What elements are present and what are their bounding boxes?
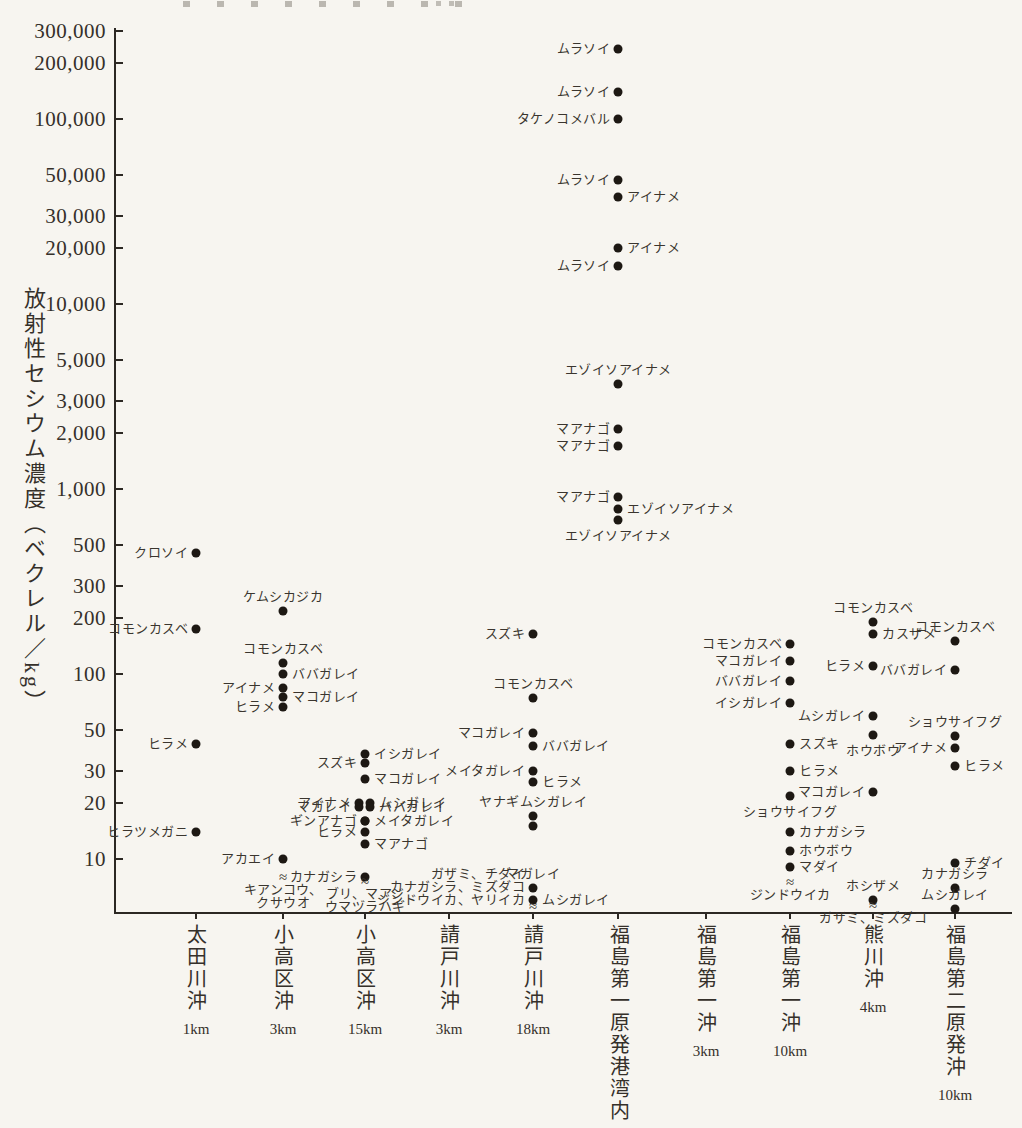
data-point [529,629,538,638]
point-label: ヒラメ [235,700,276,714]
y-axis-tick [115,729,123,731]
y-tick-label: 500 [0,532,106,558]
not-detected-species: ジンドウイカ [750,888,831,901]
y-axis-tick [115,359,123,361]
data-point [529,822,538,831]
data-point [361,749,370,758]
point-label: ホシザメ [846,879,900,893]
point-label: マアナゴ [556,490,610,504]
location-name: 請戸川沖 [522,924,544,1012]
y-tick-label: 30 [0,758,106,784]
location-name: 請戸川沖 [438,924,460,1012]
data-point [614,87,623,96]
location-name: 小高区沖 [272,924,294,1012]
data-point [786,656,795,665]
data-point [951,743,960,752]
point-label: ムラソイ [557,42,610,56]
point-label: ショウサイフグ [743,805,838,819]
point-label: タケノコメバル [517,112,611,126]
data-point [786,698,795,707]
data-point [614,44,623,53]
point-label: マコガレイ [458,726,526,740]
point-label: ケムシカジカ [243,590,323,604]
x-axis-tick [789,912,791,919]
point-label: ヒラツメガニ [107,825,188,839]
not-detected-species: ガザミ、ミズダコ [819,911,927,924]
x-category-label: 小高区沖3km [270,924,297,1038]
location-distance: 4km [860,999,887,1016]
cesium-concentration-scatter-chart: 放射性セシウム濃度（ベクレル／kg） 300,000200,000100,000… [0,0,1022,1128]
point-label: マアナゴ [374,837,428,851]
y-tick-label: 100,000 [0,106,106,132]
data-point [869,788,878,797]
data-point [529,741,538,750]
point-label: カナガシラ [290,870,358,884]
point-label: ヒラメ [825,659,866,673]
y-axis-tick [115,770,123,772]
data-point [951,761,960,770]
point-label: アイナメ [222,681,275,695]
approx-equal-symbol: ≈ [529,899,537,914]
point-label: ババガレイ [880,663,948,677]
point-label: エゾイソアイナメ [627,502,734,516]
x-category-label: 小高区沖15km [348,924,382,1038]
point-label: クロソイ [134,546,188,560]
point-label: マコガレイ [798,785,866,799]
location-distance: 3km [436,1021,463,1038]
data-point [529,883,538,892]
point-label: ヒラメ [799,764,840,778]
data-point [192,549,201,558]
data-point [869,662,878,671]
y-axis-tick [115,585,123,587]
point-label: アイナメ [627,190,680,204]
y-axis-tick [115,247,123,249]
y-axis-tick [115,400,123,402]
data-point [361,759,370,768]
x-axis-tick [705,912,707,919]
point-label: スズキ [317,756,358,770]
point-label: コモンカスベ [108,622,188,636]
data-point [192,739,201,748]
not-detected-species: ジンドウイカ、ヤリイカ [377,893,526,906]
data-point [279,693,288,702]
point-label: スズキ [485,627,526,641]
location-name: 福島第一沖 [695,924,717,1034]
data-point [786,791,795,800]
y-tick-label: 50 [0,717,106,743]
y-tick-label: 3,000 [0,388,106,414]
data-point [786,766,795,775]
y-axis-tick [115,802,123,804]
point-label: コモンカスベ [243,642,323,656]
point-label: スズキ [799,737,840,751]
point-label: カナガシラ [921,867,989,881]
data-point [192,827,201,836]
point-label: ムシガレイ [921,888,989,902]
point-label: ムラソイ [557,173,610,187]
y-axis-tick [115,617,123,619]
data-point [279,684,288,693]
data-point [279,658,288,667]
y-axis-tick [115,858,123,860]
point-label: エゾイソアイナメ [565,529,672,543]
data-point [951,904,960,913]
x-axis-tick [448,912,450,919]
data-point [361,840,370,849]
location-name: 太田川沖 [185,924,207,1012]
y-tick-label: 5,000 [0,347,106,373]
data-point [614,504,623,513]
data-point [786,863,795,872]
point-label: ババガレイ [715,674,783,688]
location-name: 熊川沖 [862,924,884,990]
y-axis-tick [115,432,123,434]
location-distance: 1km [183,1021,210,1038]
point-label: カナガシラ [799,825,867,839]
data-point [529,694,538,703]
x-category-label: 福島第一原発港湾内 [607,924,629,1122]
data-point [786,827,795,836]
point-label: マアナゴ [556,422,610,436]
data-point [614,262,623,271]
point-label: ヒラメ [317,825,358,839]
location-name: 福島第一沖 [779,924,801,1034]
data-point [361,827,370,836]
point-label: マコガレイ [292,690,360,704]
